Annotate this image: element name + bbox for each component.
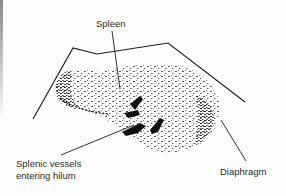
diaphragm-leader-line [221, 120, 246, 161]
spleen-tissue [55, 64, 219, 153]
vessels-leader-line [61, 125, 134, 155]
diaphragm-label: Diaphragm [220, 166, 266, 177]
splenic-vessels-label-line2: entering hilum [16, 170, 76, 181]
spleen-label: Spleen [96, 18, 126, 29]
splenic-vessels-label-line1: Splenic vessels [16, 158, 81, 169]
diagram-canvas: Spleen Splenic vessels entering hilum Di… [0, 0, 286, 196]
